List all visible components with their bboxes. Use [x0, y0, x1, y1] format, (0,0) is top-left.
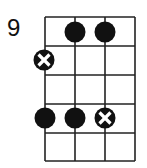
finger-dot: [35, 108, 56, 129]
fretboard-grid: [0, 0, 147, 168]
x-dot-icon: [34, 50, 55, 71]
finger-dot: [65, 108, 86, 129]
x-dot-icon: [95, 108, 116, 129]
finger-dot: [95, 22, 116, 43]
finger-dot: [65, 22, 86, 43]
